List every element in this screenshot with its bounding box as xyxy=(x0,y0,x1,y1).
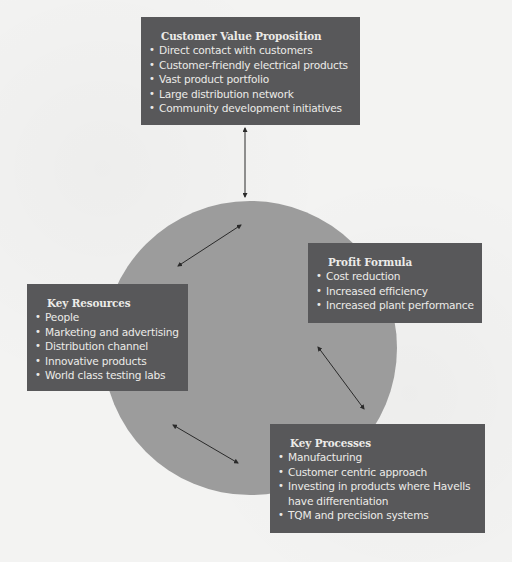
list-item: Customer centric approach xyxy=(278,465,475,479)
bullet-list: Direct contact with customers Customer-f… xyxy=(149,43,350,115)
list-item: Innovative products xyxy=(35,354,178,368)
list-item: Increased efficiency xyxy=(316,284,472,298)
box-title: Customer Value Proposition xyxy=(149,29,350,43)
list-item: Investing in products where Havells have… xyxy=(278,479,475,508)
list-item: Cost reduction xyxy=(316,269,472,283)
list-item: TQM and precision systems xyxy=(278,508,475,522)
list-item: Marketing and advertising xyxy=(35,325,178,339)
key-resources-box: Key Resources People Marketing and adver… xyxy=(27,284,188,391)
list-item: Community development initiatives xyxy=(149,101,350,115)
list-item: Large distribution network xyxy=(149,87,350,101)
key-processes-box: Key Processes Manufacturing Customer cen… xyxy=(270,424,485,533)
list-item: Distribution channel xyxy=(35,339,178,353)
box-title: Key Processes xyxy=(278,436,475,450)
list-item: Increased plant performance xyxy=(316,298,472,312)
bullet-list: Cost reduction Increased efficiency Incr… xyxy=(316,269,472,312)
list-item: Vast product portfolio xyxy=(149,72,350,86)
box-title: Key Resources xyxy=(35,296,178,310)
customer-value-proposition-box: Customer Value Proposition Direct contac… xyxy=(141,17,360,125)
list-item: World class testing labs xyxy=(35,368,178,382)
list-item: People xyxy=(35,310,178,324)
bullet-list: People Marketing and advertising Distrib… xyxy=(35,310,178,382)
list-item: Manufacturing xyxy=(278,450,475,464)
bullet-list: Manufacturing Customer centric approach … xyxy=(278,450,475,522)
box-title: Profit Formula xyxy=(316,255,472,269)
list-item: Direct contact with customers xyxy=(149,43,350,57)
list-item: Customer-friendly electrical products xyxy=(149,58,350,72)
profit-formula-box: Profit Formula Cost reduction Increased … xyxy=(308,243,482,323)
